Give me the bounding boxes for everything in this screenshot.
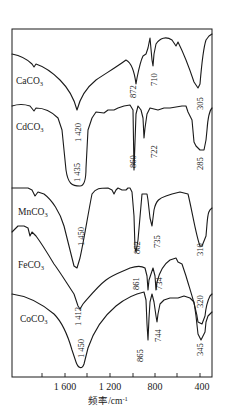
- peak-label-feco3-1412: 1 412: [73, 307, 83, 326]
- peak-label-coco3-1450: 1 450: [76, 339, 86, 358]
- peak-label-mnco3-310: 310: [195, 243, 205, 256]
- peak-label-caco3-1420: 1 420: [73, 123, 83, 142]
- peak-label-caco3-710: 710: [149, 73, 159, 86]
- label-coco3: CoCO3: [20, 314, 48, 325]
- curve-mnco3: [12, 188, 212, 268]
- label-caco3: CaCO3: [16, 76, 43, 87]
- x-tick-label-800: 800: [148, 381, 163, 392]
- peak-label-mnco3-1450: 1 450: [76, 227, 86, 246]
- curve-caco3: [12, 34, 212, 110]
- peak-label-cdco3-860: 860: [128, 155, 138, 168]
- x-tick-label-1600: 1 600: [54, 381, 77, 392]
- label-cdco3: CdCO3: [16, 122, 44, 133]
- ir-spectra-chart: 1 600 1 200 800 400 频率/cm-1 CaCO3 CdCO3 …: [0, 0, 225, 417]
- peak-labels: 1 420 872 710 305 1 435 860 722 285 1 45…: [72, 73, 205, 362]
- peak-label-feco3-734: 734: [154, 277, 164, 291]
- peak-label-caco3-872: 872: [128, 85, 138, 98]
- x-tick-label-400: 400: [195, 381, 210, 392]
- peak-label-mnco3-862: 862: [132, 241, 142, 254]
- label-feco3: FeCO3: [18, 260, 44, 271]
- peak-label-coco3-744: 744: [153, 329, 163, 343]
- peak-label-coco3-865: 865: [135, 349, 145, 362]
- curve-cdco3: [12, 105, 212, 187]
- peak-label-cdco3-722: 722: [149, 145, 159, 158]
- peak-label-feco3-861: 861: [131, 277, 141, 290]
- peak-label-cdco3-285: 285: [195, 157, 205, 170]
- peak-label-feco3-320: 320: [195, 295, 205, 308]
- label-mnco3: MnCO3: [18, 207, 48, 218]
- peak-label-coco3-345: 345: [195, 343, 205, 356]
- x-axis-label: 频率/cm-1: [88, 395, 128, 406]
- x-axis-ticks: [42, 373, 200, 377]
- peak-label-mnco3-735: 735: [152, 235, 162, 248]
- peak-label-caco3-305: 305: [195, 97, 205, 110]
- x-tick-label-1200: 1 200: [99, 381, 122, 392]
- peak-label-cdco3-1435: 1 435: [72, 163, 82, 182]
- curve-coco3: [12, 292, 212, 368]
